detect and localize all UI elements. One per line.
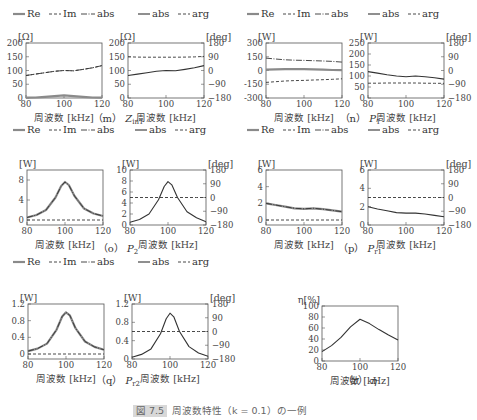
y2-tick-label: −180	[448, 93, 471, 103]
series-abs	[26, 66, 102, 76]
svg-text:周波数特性（k = 0.1）の一例: 周波数特性（k = 0.1）の一例	[172, 405, 307, 416]
x-axis-label: 周波数 [kHz]	[34, 112, 93, 123]
y-unit-label: [W]	[124, 292, 141, 303]
chart-o-right: 801001200246810[W]−180−90090180[deg]周波数 …	[116, 158, 233, 250]
svg-text:Re: Re	[27, 256, 41, 267]
y-tick-label: 8	[19, 175, 24, 185]
panel-caption-o: （o） P2	[98, 243, 138, 256]
y-tick-label: 100	[349, 71, 365, 81]
series-abs	[130, 182, 206, 223]
x-axis-label: 周波数 [kHz]	[136, 112, 195, 123]
y-tick-label: 0	[20, 349, 25, 359]
y-tick-label: 150	[349, 60, 365, 70]
y-tick-label: 0	[314, 356, 319, 366]
chart-m-left: 80100120050100150200[Ω]周波数 [kHz]	[7, 31, 110, 123]
x-tick-label: 120	[390, 362, 406, 372]
y-tick-label: 0.4	[115, 336, 129, 346]
figure-canvas: ReImabsabsargReImabsabsargReImabsabsargR…	[0, 0, 477, 420]
y-tick-label: 80	[308, 312, 319, 322]
y-tick-label: 20	[308, 345, 319, 355]
series-abs	[128, 66, 204, 76]
y-unit-label: [W]	[258, 158, 275, 169]
y-tick-label: 60	[308, 323, 319, 333]
y-tick-label: 0	[19, 215, 24, 225]
x-tick-label: 100	[352, 362, 368, 372]
x-tick-label: 80	[23, 360, 34, 370]
y2-tick-label: −90	[208, 79, 226, 89]
series-abs	[27, 182, 103, 218]
y-unit-label: [W]	[360, 31, 377, 42]
svg-text:Im: Im	[297, 8, 311, 19]
legend-polar: absarg	[135, 124, 207, 135]
x-tick-label: 100	[162, 360, 178, 370]
y-tick-label: -300	[244, 93, 263, 103]
svg-text:abs: abs	[331, 124, 349, 135]
x-tick-label: 100	[160, 226, 176, 236]
y-tick-label: 0	[18, 93, 23, 103]
svg-text:abs: abs	[97, 8, 115, 19]
x-axis-label: 周波数 [kHz]	[36, 373, 95, 384]
y-tick-label: 150	[109, 52, 125, 62]
y-tick-label: 6	[122, 187, 127, 197]
svg-text:Im: Im	[63, 124, 77, 135]
y-tick-label: 50	[114, 79, 125, 89]
y-tick-label: 50	[12, 79, 23, 89]
series-η	[322, 319, 398, 351]
y2-tick-label: −90	[448, 79, 466, 89]
x-axis-label: 周波数 [kHz]	[274, 112, 333, 123]
svg-text:abs: abs	[331, 8, 349, 19]
x-axis-label: 周波数 [kHz]	[274, 239, 333, 250]
x-tick-label: 80	[22, 226, 33, 236]
y-tick-label: 40	[308, 334, 319, 344]
series-re	[28, 312, 104, 351]
legend-complex: ReImabs	[247, 8, 349, 19]
y-tick-label: 0	[360, 220, 365, 230]
chart-q-left: 8010012000.40.81.2[W]周波数 [kHz]	[11, 292, 112, 384]
y-tick-label: 4	[360, 183, 365, 193]
series-re	[266, 69, 342, 70]
svg-text:図 7.5: 図 7.5	[136, 405, 164, 416]
figure-caption: 図 7.5周波数特性（k = 0.1）の一例	[133, 405, 307, 417]
x-tick-label: 100	[296, 226, 312, 236]
y-tick-label: 0	[122, 220, 127, 230]
y2-unit-label: [deg]	[206, 31, 231, 42]
y2-tick-label: 90	[448, 52, 459, 62]
y-tick-label: 4	[19, 195, 24, 205]
chart-p-left: 801001200246[W]周波数 [kHz]	[258, 158, 351, 250]
x-tick-label: 100	[158, 99, 174, 109]
legend-polar: absarg	[138, 8, 210, 19]
x-tick-label: 120	[94, 99, 110, 109]
y-tick-label: 8	[122, 176, 127, 186]
x-tick-label: 80	[261, 226, 272, 236]
chart-n-right: 80100120050100150200250[W]−180−90090180[…	[349, 31, 472, 123]
svg-text:（q） Pr2: （q） Pr2	[96, 375, 140, 388]
x-axis-label: 周波数 [kHz]	[35, 239, 94, 250]
svg-text:arg: arg	[192, 256, 210, 267]
y2-tick-label: 0	[448, 66, 453, 76]
x-tick-label: 120	[95, 226, 111, 236]
y-unit-label: [W]	[258, 31, 275, 42]
y-tick-label: 4	[122, 198, 127, 208]
svg-text:abs: abs	[149, 124, 167, 135]
y2-unit-label: [deg]	[446, 31, 471, 42]
y2-tick-label: −90	[212, 340, 230, 350]
y-unit-label: [Ω]	[18, 31, 33, 42]
chart-o-left: 80100120048[W]周波数 [kHz]	[19, 158, 112, 250]
y-unit-label: [Ω]	[120, 31, 135, 42]
svg-text:abs: abs	[152, 8, 170, 19]
panel-caption-r: （r） η	[343, 375, 377, 386]
y2-tick-label: 90	[208, 52, 219, 62]
y-tick-label: 4	[258, 182, 263, 192]
svg-text:abs: abs	[382, 8, 400, 19]
chart-m-right: 80100120050100150200[Ω]−180−90090180[deg…	[109, 31, 232, 123]
y2-tick-label: 90	[210, 179, 221, 189]
x-axis-label: 周波数 [kHz]	[138, 239, 197, 250]
x-tick-label: 100	[296, 99, 312, 109]
chart-n-left: 80100120-300-1500150300[W]周波数 [kHz]	[244, 31, 350, 123]
y-tick-label: 2	[258, 198, 263, 208]
legend-complex: ReImabs	[247, 124, 349, 135]
legend-polar: absarg	[138, 256, 210, 267]
svg-text:abs: abs	[382, 124, 400, 135]
series-abs	[368, 72, 444, 80]
y-tick-label: 0.8	[11, 316, 25, 326]
